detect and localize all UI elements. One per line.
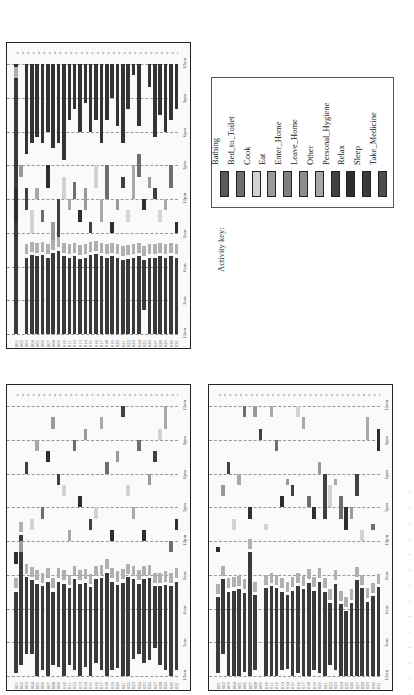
- activity-chart-b: 12am3am6am9am12pm3pm6pm9pm12am0010020030…: [6, 384, 191, 691]
- day-label: 009: [56, 682, 61, 689]
- morning-activity-bar: [280, 578, 284, 588]
- legend-swatch: [252, 171, 261, 197]
- activity-bar: [14, 188, 18, 222]
- activity-bar: [232, 519, 236, 530]
- day-label: 015: [290, 682, 295, 689]
- day-label: 007: [46, 682, 51, 689]
- activity-bar: [264, 524, 268, 530]
- sleep-bar: [137, 256, 141, 334]
- morning-activity-bar: [366, 588, 370, 598]
- time-tick-label: 9pm: [384, 436, 389, 445]
- morning-activity-bar: [253, 582, 257, 592]
- legend-swatch: [283, 171, 292, 197]
- sleep-bar: [84, 583, 88, 667]
- morning-activity-bar: [307, 569, 311, 579]
- sleep-bar: [334, 584, 338, 671]
- morning-activity-bar: [158, 573, 162, 583]
- activity-bar: [237, 474, 241, 485]
- time-tick-label: 6pm: [182, 470, 187, 479]
- activity-bar: [216, 547, 220, 553]
- time-tick-label: 6am: [182, 263, 187, 272]
- evening-activity-bar: [164, 64, 168, 132]
- morning-activity-bar: [41, 242, 45, 252]
- day-label: 010: [264, 682, 269, 689]
- day-label: 027: [355, 682, 360, 689]
- morning-activity-bar: [68, 575, 72, 585]
- evening-activity-bar: [94, 64, 98, 120]
- sleep-bar: [153, 586, 157, 648]
- activity-bar: [169, 541, 173, 552]
- sleep-bar: [232, 591, 236, 677]
- time-tick-label: 6am: [182, 605, 187, 614]
- activity-bar: [62, 485, 66, 496]
- morning-activity-bar: [51, 578, 55, 588]
- sleep-bar: [302, 589, 306, 676]
- activity-bar: [142, 530, 146, 541]
- day-label: 030: [169, 340, 174, 347]
- morning-activity-bar: [121, 246, 125, 256]
- legend-swatch: [220, 171, 229, 197]
- activity-bar: [153, 188, 157, 199]
- activity-bar: [158, 429, 162, 440]
- figure-caption: . . . . . . . . . . . . . .: [404, 486, 412, 695]
- morning-activity-bar: [41, 573, 45, 583]
- sleep-bar: [216, 597, 220, 672]
- evening-activity-bar: [116, 64, 120, 126]
- sleep-bar: [89, 255, 93, 334]
- sleep-bar: [169, 586, 173, 676]
- sleep-bar: [116, 258, 120, 335]
- day-label: 012: [72, 682, 77, 689]
- morning-activity-bar: [350, 589, 354, 599]
- activity-bar: [89, 222, 93, 233]
- activity-bar: [137, 440, 141, 451]
- activity-bar: [355, 474, 359, 497]
- morning-activity-bar: [132, 244, 136, 254]
- sleep-bar: [78, 259, 82, 334]
- day-label: 012: [274, 682, 279, 689]
- activity-bar: [360, 530, 364, 541]
- day-label: 009: [258, 682, 263, 689]
- morning-activity-bar: [221, 566, 225, 576]
- day-label: 027: [153, 340, 158, 347]
- morning-activity-bar: [14, 578, 18, 588]
- day-label: 007: [46, 340, 51, 347]
- morning-activity-bar: [78, 245, 82, 255]
- sleep-bar: [350, 603, 354, 676]
- activity-chart-a: 12am3am6am9am12pm3pm6pm9pm12am0010020030…: [6, 42, 191, 349]
- sleep-bar: [158, 256, 162, 334]
- sleep-bar: [73, 256, 77, 334]
- activity-bar: [280, 496, 284, 507]
- activity-bar: [164, 199, 168, 210]
- activity-bar: [84, 188, 88, 211]
- sleep-bar: [94, 579, 98, 662]
- morning-activity-bar: [318, 568, 322, 578]
- evening-activity-bar: [73, 64, 77, 109]
- sleep-bar: [286, 595, 290, 669]
- sleep-bar: [89, 587, 93, 676]
- sleep-bar: [360, 588, 364, 676]
- activity-bar: [158, 210, 162, 221]
- morning-activity-bar: [78, 570, 82, 580]
- day-label: 018: [104, 340, 109, 347]
- sleep-bar: [41, 586, 45, 670]
- activity-bar: [78, 496, 82, 507]
- legend-item-take-medicine: Take_Medicine: [376, 78, 392, 207]
- time-gridline: [209, 541, 380, 542]
- day-label: 021: [121, 682, 126, 689]
- sleep-bar: [323, 592, 327, 676]
- morning-activity-bar: [323, 578, 327, 588]
- time-tick-label: 3pm: [384, 503, 389, 512]
- sleep-bar: [148, 578, 152, 660]
- morning-activity-bar: [328, 589, 332, 599]
- morning-activity-bar: [62, 243, 66, 253]
- sleep-bar: [339, 604, 343, 676]
- day-label: 013: [280, 682, 285, 689]
- sleep-bar: [62, 584, 66, 676]
- activity-bar: [153, 451, 157, 462]
- legend-swatch: [236, 171, 245, 197]
- day-label: 013: [78, 340, 83, 347]
- day-label: 024: [137, 682, 142, 689]
- morning-activity-bar: [126, 564, 130, 574]
- morning-activity-bar: [158, 243, 162, 253]
- activity-bar: [62, 177, 66, 200]
